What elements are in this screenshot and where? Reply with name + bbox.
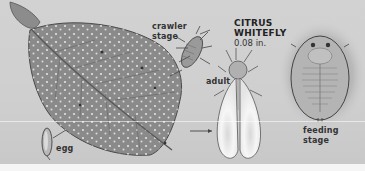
whitefly-illustration: crawler stage CITRUS WHITEFLY 0.08 in. a… <box>0 0 365 164</box>
crawler-label-line2: stage <box>152 32 178 41</box>
page-margin <box>0 164 365 171</box>
adult-whitefly-icon <box>190 48 262 158</box>
crawler-label-line1: crawler <box>152 22 187 31</box>
feeding-label-line1: feeding <box>303 126 339 135</box>
figure-title-line2: WHITEFLY <box>234 28 287 38</box>
scan-line <box>0 121 365 122</box>
feeding-stage-icon <box>278 20 365 130</box>
egg-label: egg <box>56 144 73 153</box>
figure-title-line1: CITRUS <box>234 18 273 28</box>
feeding-label-line2: stage <box>303 136 329 145</box>
size-label: 0.08 in. <box>234 38 266 48</box>
adult-label: adult <box>206 77 230 86</box>
